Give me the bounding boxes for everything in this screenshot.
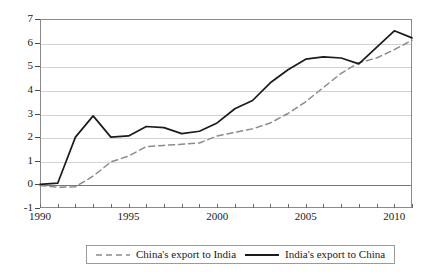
series-container <box>40 19 412 208</box>
legend-label-indias-export-to-china: India's export to China <box>285 249 385 260</box>
x-tick-mark-2009 <box>377 204 378 208</box>
x-tick-mark-1990 <box>40 204 41 208</box>
x-tick-mark-1998 <box>182 204 183 208</box>
legend-swatch-dashed-icon <box>96 251 130 259</box>
legend-entry-indias-export-to-china: India's export to China <box>245 249 385 260</box>
x-tick-mark-2002 <box>253 204 254 208</box>
x-tick-label-1995: 1995 <box>109 210 149 222</box>
y-tick-mark-1 <box>35 161 40 162</box>
y-tick-label-5: 5 <box>7 60 33 71</box>
y-tick-mark-3 <box>35 114 40 115</box>
legend-entry-chinas-export-to-india: China's export to India <box>96 249 236 260</box>
y-tick-mark-7 <box>35 19 40 20</box>
x-tick-mark-2011 <box>412 204 413 208</box>
y-tick-label-1: 1 <box>7 155 33 166</box>
x-tick-mark-1995 <box>129 204 130 208</box>
y-tick-mark-4 <box>35 90 40 91</box>
y-tick-mark-6 <box>35 43 40 44</box>
x-tick-mark-2010 <box>394 204 395 208</box>
x-tick-mark-1993 <box>93 204 94 208</box>
x-tick-mark-1991 <box>58 204 59 208</box>
series-line-indias-export-to-china <box>40 31 412 185</box>
y-tick-mark-0 <box>35 184 40 185</box>
y-tick-mark-5 <box>35 66 40 67</box>
y-tick-label-7: 7 <box>7 13 33 24</box>
y-tick-label-4: 4 <box>7 84 33 95</box>
x-tick-mark-2001 <box>235 204 236 208</box>
y-tick-label-0: 0 <box>7 178 33 189</box>
y-axis-labels: 76543210-1 <box>0 0 33 275</box>
x-tick-label-1990: 1990 <box>20 210 60 222</box>
y-tick-mark-2 <box>35 137 40 138</box>
x-tick-mark-1997 <box>164 204 165 208</box>
x-tick-mark-2006 <box>323 204 324 208</box>
y-tick-mark--1 <box>35 208 40 209</box>
x-tick-label-2005: 2005 <box>286 210 326 222</box>
x-tick-mark-2004 <box>288 204 289 208</box>
y-tick-label-6: 6 <box>7 37 33 48</box>
x-tick-mark-1992 <box>75 204 76 208</box>
x-tick-mark-1999 <box>199 204 200 208</box>
legend-swatch-solid-icon <box>245 251 279 259</box>
x-tick-mark-2005 <box>306 204 307 208</box>
x-tick-label-2010: 2010 <box>374 210 414 222</box>
x-tick-mark-2003 <box>270 204 271 208</box>
x-tick-mark-2000 <box>217 204 218 208</box>
x-tick-label-2000: 2000 <box>197 210 237 222</box>
chart-legend: China's export to India India's export t… <box>86 245 395 264</box>
x-tick-mark-1996 <box>146 204 147 208</box>
legend-label-chinas-export-to-india: China's export to India <box>136 249 236 260</box>
x-tick-mark-1994 <box>111 204 112 208</box>
y-tick-label-3: 3 <box>7 108 33 119</box>
chart-figure: 76543210-1 19901995200020052010 China's … <box>0 0 436 275</box>
x-tick-mark-2008 <box>359 204 360 208</box>
y-tick-label-2: 2 <box>7 131 33 142</box>
x-tick-mark-2007 <box>341 204 342 208</box>
